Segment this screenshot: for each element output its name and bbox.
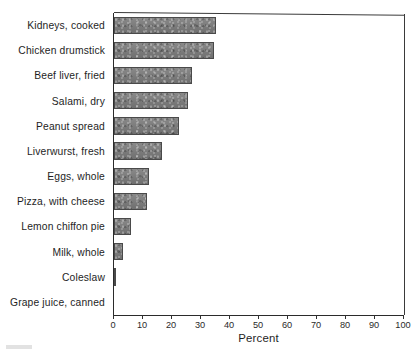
category-label: Kidneys, cooked [27, 13, 105, 38]
bar-row [114, 265, 404, 290]
bar [114, 243, 123, 260]
bar-row [114, 290, 404, 315]
scan-artifact [6, 345, 32, 349]
category-label: Liverwurst, fresh [27, 139, 105, 164]
category-label: Milk, whole [52, 240, 105, 265]
bar [114, 168, 149, 185]
x-axis-tick [229, 315, 230, 319]
bar-row [114, 89, 404, 114]
category-label: Lemon chiffon pie [21, 214, 105, 239]
bar-row [114, 139, 404, 164]
bar [114, 17, 216, 34]
x-axis-tick-label: 20 [166, 320, 176, 330]
x-axis-tick [171, 315, 172, 319]
category-label: Salami, dry [52, 89, 105, 114]
bar-row [114, 114, 404, 139]
x-axis-tick [345, 315, 346, 319]
bar [114, 92, 188, 109]
x-axis-tick [258, 315, 259, 319]
x-axis-title: Percent [113, 332, 404, 344]
x-axis-tick [142, 315, 143, 319]
x-axis-tick-label: 40 [224, 320, 234, 330]
bar [114, 117, 179, 134]
x-axis-tick [113, 315, 114, 319]
x-axis-tick [403, 315, 404, 319]
x-axis-tick-label: 0 [110, 320, 115, 330]
x-axis-tick [316, 315, 317, 319]
x-axis-tick-label: 10 [137, 320, 147, 330]
category-label: Eggs, whole [47, 164, 105, 189]
bar [114, 67, 192, 84]
category-label: Grape juice, canned [10, 290, 105, 315]
x-axis-tick-label: 80 [340, 320, 350, 330]
x-axis-tick-label: 60 [282, 320, 292, 330]
bar [114, 268, 116, 285]
category-label: Coleslaw [62, 265, 105, 290]
bar-row [114, 63, 404, 88]
bar [114, 193, 147, 210]
bar-row [114, 164, 404, 189]
bar [114, 142, 162, 159]
bar [114, 42, 214, 59]
x-axis-tick-label: 90 [369, 320, 379, 330]
x-axis-tick [374, 315, 375, 319]
x-axis-tick-label: 30 [195, 320, 205, 330]
bar-row [114, 214, 404, 239]
plot-area [113, 13, 404, 316]
category-label: Peanut spread [36, 114, 105, 139]
bar [114, 218, 131, 235]
bar-row [114, 13, 404, 38]
x-axis-tick-label: 100 [395, 320, 410, 330]
bar-row [114, 240, 404, 265]
bar-row [114, 189, 404, 214]
x-axis-tick-label: 70 [311, 320, 321, 330]
category-label: Pizza, with cheese [17, 189, 105, 214]
category-label: Beef liver, fried [34, 63, 105, 88]
x-axis-tick-label: 50 [253, 320, 263, 330]
horizontal-bar-chart: Kidneys, cookedChicken drumstickBeef liv… [0, 0, 413, 357]
bar-row [114, 38, 404, 63]
x-axis-tick [287, 315, 288, 319]
category-label: Chicken drumstick [18, 38, 105, 63]
x-axis-tick [200, 315, 201, 319]
category-axis: Kidneys, cookedChicken drumstickBeef liv… [0, 13, 109, 315]
